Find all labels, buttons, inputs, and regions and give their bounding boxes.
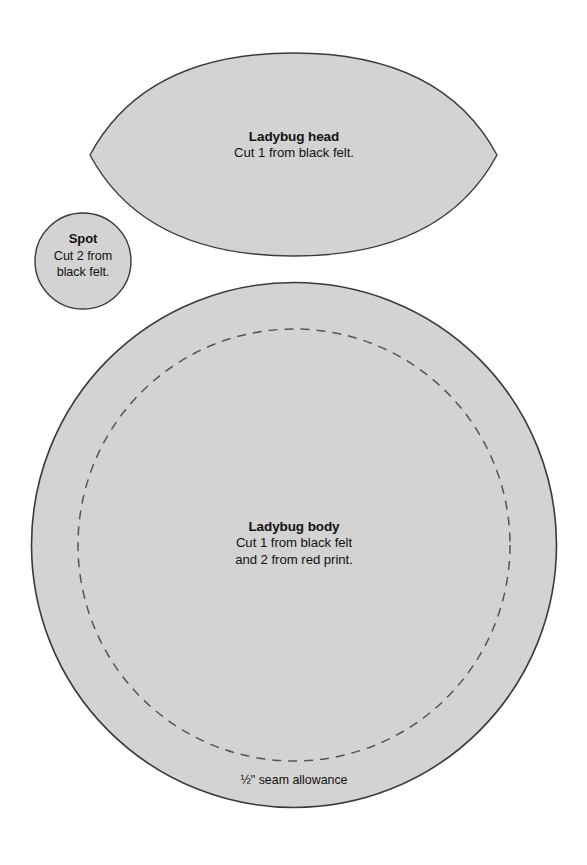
ladybug-head-shape: [90, 53, 497, 256]
pattern-shapes: [0, 0, 587, 865]
ladybug-body-shape: [32, 283, 557, 808]
pattern-sheet: Ladybug head Cut 1 from black felt. Spot…: [0, 0, 587, 865]
ladybug-spot-shape: [35, 213, 131, 309]
